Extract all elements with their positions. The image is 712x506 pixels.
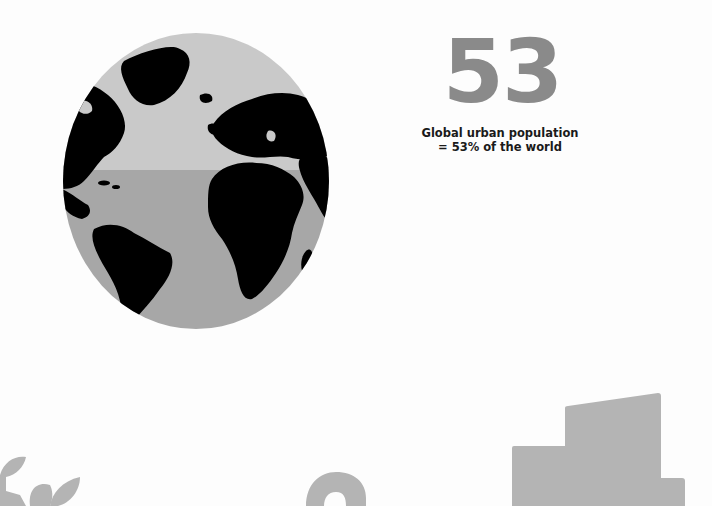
- buildings-icon: [510, 390, 690, 506]
- plant-sprout-icon: [0, 455, 90, 506]
- globe-illustration: [62, 33, 330, 331]
- stat-caption: Global urban population = 53% of the wor…: [400, 126, 600, 154]
- plant-sprout-decoration: [0, 455, 90, 506]
- urban-population-stat: 53 Global urban population = 53% of the …: [400, 28, 600, 154]
- digit-two-icon: [300, 470, 370, 506]
- globe-icon: [62, 33, 330, 331]
- digit-decoration: [300, 470, 370, 506]
- stat-caption-line-2: = 53% of the world: [400, 140, 600, 154]
- stat-number: 53: [404, 28, 600, 116]
- stat-caption-line-1: Global urban population: [400, 126, 600, 140]
- buildings-decoration: [510, 390, 690, 506]
